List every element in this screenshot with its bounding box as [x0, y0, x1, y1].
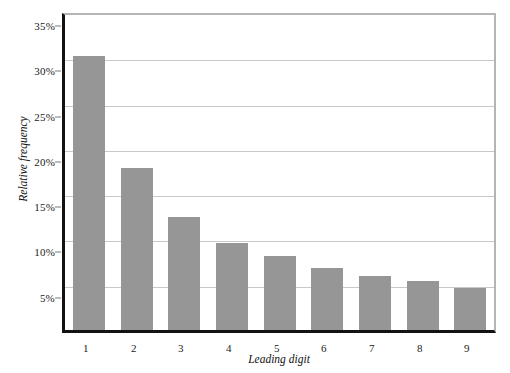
bar: [407, 281, 439, 330]
x-axis-title: Leading digit: [62, 353, 496, 365]
bar: [454, 288, 486, 330]
y-tick-label: 30%: [34, 65, 55, 77]
y-tick-label: 10%: [34, 246, 55, 258]
y-tick-mark: [55, 207, 61, 208]
gridline: [65, 106, 494, 107]
y-tick-mark: [55, 71, 61, 72]
bar: [121, 168, 153, 330]
bar: [216, 243, 248, 330]
bar: [359, 276, 391, 330]
y-tick-label: 25%: [34, 111, 55, 123]
y-tick-label: 20%: [34, 156, 55, 168]
bar: [311, 268, 343, 330]
y-tick-label: 15%: [34, 201, 55, 213]
y-tick-mark: [55, 252, 61, 253]
y-tick-label: 35%: [34, 20, 55, 32]
gridline: [65, 151, 494, 152]
bar: [264, 256, 296, 330]
x-axis-tick-labels: 123456789: [62, 336, 496, 354]
y-tick-mark: [55, 297, 61, 298]
benford-leading-digit-bar-chart: Relative frequency 5%10%15%20%25%30%35% …: [0, 0, 510, 373]
gridline: [65, 60, 494, 61]
y-tick-label: 5%: [40, 292, 55, 304]
bar: [73, 56, 105, 330]
y-axis-tick-labels: 5%10%15%20%25%30%35%: [0, 13, 55, 333]
plot-frame: [62, 13, 496, 333]
bar: [168, 217, 200, 330]
y-tick-mark: [55, 26, 61, 27]
y-tick-mark: [55, 116, 61, 117]
y-tick-mark: [55, 161, 61, 162]
plot-area: [65, 15, 494, 330]
